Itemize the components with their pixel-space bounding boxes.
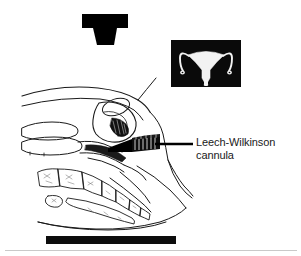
cannula-label-line-1: Leech-Wilkinson xyxy=(196,136,275,149)
figure-root: Leech-Wilkinson cannula xyxy=(0,0,301,256)
leech-wilkinson-cannula xyxy=(108,134,160,152)
medical-illustration-canvas xyxy=(0,0,301,256)
cannula-label-line-2: cannula xyxy=(196,149,275,162)
pelvis-sagittal-drawing xyxy=(22,78,193,230)
hysterosalpingogram-inset xyxy=(171,40,241,87)
cannula-annotation-label: Leech-Wilkinson cannula xyxy=(196,136,275,161)
bottom-divider xyxy=(5,250,297,251)
xray-tube-icon xyxy=(82,14,128,45)
xray-cassette xyxy=(46,236,176,244)
